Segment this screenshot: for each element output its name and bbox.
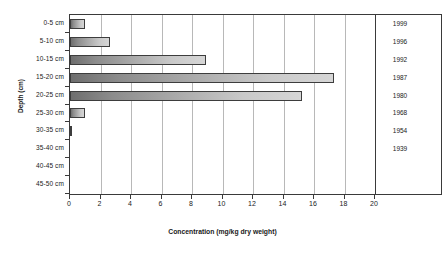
- bar: [70, 126, 72, 136]
- bar-row: [70, 33, 375, 51]
- year-tick-label: 1987: [382, 74, 418, 81]
- year-tick-label: 1954: [382, 127, 418, 134]
- depth-tick-label: 35-40 cm: [0, 139, 64, 157]
- x-tick-label: 4: [118, 200, 142, 207]
- year-tick-label: 1980: [382, 92, 418, 99]
- bar: [70, 91, 302, 101]
- bar-row: [70, 51, 375, 69]
- x-tick-label: 6: [149, 200, 173, 207]
- x-tick-label: 2: [88, 200, 112, 207]
- x-tick-label: 18: [332, 200, 356, 207]
- x-tick-mark: [222, 195, 223, 199]
- depth-tick-label: 30-35 cm: [0, 121, 64, 139]
- x-tick-mark: [161, 195, 162, 199]
- depth-tick-label: 40-45 cm: [0, 157, 64, 175]
- x-axis-ticks: 02468101214161820: [69, 195, 376, 203]
- depth-tick-label: 15-20 cm: [0, 68, 64, 86]
- x-tick-mark: [374, 195, 375, 199]
- bars-layer: [70, 15, 375, 194]
- x-tick-mark: [100, 195, 101, 199]
- depth-tick-label: 25-30 cm: [0, 104, 64, 122]
- year-tick-label: 1999: [382, 20, 418, 27]
- bar: [70, 19, 85, 29]
- year-tick-label: 1992: [382, 56, 418, 63]
- x-tick-mark: [344, 195, 345, 199]
- plot-area: [69, 14, 376, 195]
- x-tick-mark: [130, 195, 131, 199]
- bar-row: [70, 158, 375, 176]
- bar-chart: Depth (cm) Year 0-5 cm5-10 cm10-15 cm15-…: [0, 0, 444, 254]
- bar-row: [70, 87, 375, 105]
- x-tick-label: 20: [362, 200, 386, 207]
- x-tick-mark: [69, 195, 70, 199]
- year-tick-label: 1996: [382, 38, 418, 45]
- bar: [70, 55, 206, 65]
- x-tick-label: 10: [210, 200, 234, 207]
- depth-tick-label: 5-10 cm: [0, 32, 64, 50]
- x-tick-mark: [252, 195, 253, 199]
- bar: [70, 73, 334, 83]
- depth-tick-label: 0-5 cm: [0, 14, 64, 32]
- bar-row: [70, 122, 375, 140]
- x-axis-title: Concentration (mg/kg dry weight): [69, 228, 376, 235]
- bar-row: [70, 15, 375, 33]
- bar-row: [70, 140, 375, 158]
- x-tick-label: 8: [179, 200, 203, 207]
- year-tick-label: 1939: [382, 145, 418, 152]
- bar: [70, 37, 110, 47]
- x-tick-label: 16: [301, 200, 325, 207]
- x-tick-mark: [283, 195, 284, 199]
- year-tick-label: 1968: [382, 109, 418, 116]
- bar-row: [70, 69, 375, 87]
- x-tick-label: 12: [240, 200, 264, 207]
- x-tick-label: 14: [271, 200, 295, 207]
- bar-row: [70, 176, 375, 194]
- year-axis-panel: 19991996199219871980196819541939: [376, 14, 442, 195]
- depth-tick-label: 10-15 cm: [0, 50, 64, 68]
- depth-tick-label: 20-25 cm: [0, 86, 64, 104]
- bar: [70, 108, 85, 118]
- depth-tick-label: 45-50 cm: [0, 175, 64, 193]
- bar-row: [70, 105, 375, 123]
- x-tick-mark: [313, 195, 314, 199]
- x-tick-mark: [191, 195, 192, 199]
- x-tick-label: 0: [57, 200, 81, 207]
